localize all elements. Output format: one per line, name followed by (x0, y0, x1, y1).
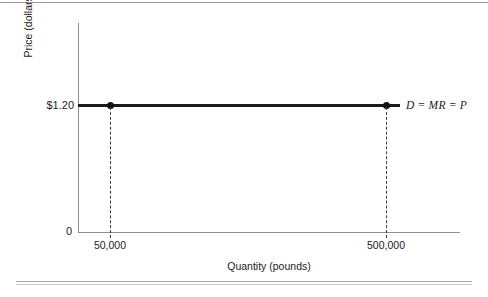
bottom-divider-rule-lower (16, 284, 472, 285)
y-axis-line (78, 23, 79, 233)
demand-curve-line (78, 104, 400, 107)
y-axis-tick-label-price: $1.20 (36, 100, 74, 111)
drop-line-500000 (386, 107, 387, 238)
drop-line-50000 (110, 107, 111, 238)
x-axis-tick-label-50000: 50,000 (94, 240, 126, 251)
x-axis-line (78, 232, 460, 233)
demand-curve-label: D = MR = P (406, 100, 467, 112)
perfect-competition-demand-chart: $1.20 0 50,000 500,000 D = MR = P Quanti… (0, 0, 488, 297)
x-axis-title: Quantity (pounds) (227, 261, 310, 272)
origin-label: 0 (58, 226, 72, 237)
top-divider-rule (0, 2, 488, 3)
bottom-divider-rule-upper (16, 281, 472, 282)
x-axis-tick-label-500000: 500,000 (367, 240, 405, 251)
y-axis-title: Price (dollars per pound) (22, 0, 34, 57)
